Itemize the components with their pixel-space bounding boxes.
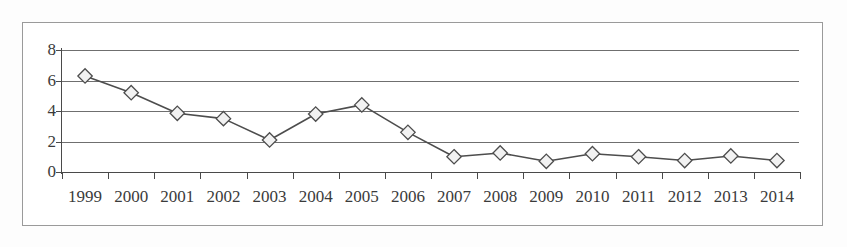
y-tick-label-6: 6	[30, 72, 56, 89]
y-tick-mark-2	[56, 142, 62, 143]
x-tick-mark-2	[154, 172, 155, 179]
y-tick-label-0: 0	[30, 163, 56, 180]
y-tick-mark-8	[56, 50, 62, 51]
x-tick-mark-16	[800, 172, 801, 179]
x-tick-mark-8	[431, 172, 432, 179]
x-tick-mark-0	[62, 172, 63, 179]
y-tick-mark-6	[56, 81, 62, 82]
x-tick-mark-3	[200, 172, 201, 179]
gridline-4	[62, 111, 799, 112]
x-axis-tick-labels: 1999200020012002200320042005200620072008…	[62, 186, 800, 212]
chart-figure: 8 6 4 2 0 199920002001200220032004200520…	[0, 0, 847, 247]
gridline-2	[62, 142, 799, 143]
x-tick-mark-7	[385, 172, 386, 179]
plot-area	[62, 50, 799, 172]
x-tick-mark-5	[293, 172, 294, 179]
x-tick-mark-6	[339, 172, 340, 179]
x-tick-mark-9	[477, 172, 478, 179]
x-tick-mark-15	[754, 172, 755, 179]
x-tick-mark-1	[108, 172, 109, 179]
x-tick-label-2014: 2014	[750, 186, 804, 208]
x-tick-mark-14	[708, 172, 709, 179]
x-tick-mark-12	[616, 172, 617, 179]
gridline-8	[62, 50, 799, 51]
y-tick-label-2: 2	[30, 133, 56, 150]
x-tick-mark-13	[662, 172, 663, 179]
gridline-6	[62, 81, 799, 82]
y-tick-label-8: 8	[30, 41, 56, 58]
x-tick-mark-11	[569, 172, 570, 179]
y-tick-label-4: 4	[30, 102, 56, 119]
y-tick-mark-4	[56, 111, 62, 112]
x-tick-mark-4	[247, 172, 248, 179]
y-axis-tick-labels: 8 6 4 2 0	[26, 0, 56, 247]
x-tick-mark-10	[523, 172, 524, 179]
